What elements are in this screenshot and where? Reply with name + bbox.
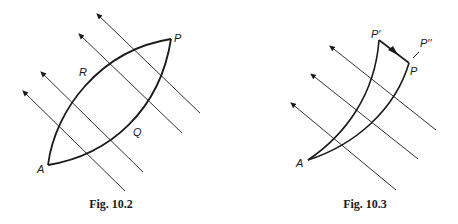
label-A: A [36, 163, 44, 175]
figure-caption: Fig. 10.3 [343, 197, 387, 211]
arrow-line [291, 103, 396, 190]
figure-caption: Fig. 10.2 [89, 197, 133, 211]
label-R: R [79, 66, 87, 78]
arrow-line [330, 46, 436, 130]
P-double-prime-tick [413, 52, 419, 58]
label-P: P [410, 65, 418, 77]
label-P-double-prime: P′′ [420, 37, 432, 49]
diagram-canvas: P R Q A Fig. 10.2 P′ P′′ P A Fig. 10.3 [0, 0, 458, 224]
lens-curve-lower [48, 39, 171, 165]
lens-curve-upper [48, 39, 171, 165]
arrow-line [79, 34, 182, 133]
label-A: A [295, 157, 303, 169]
label-P-prime: P′ [371, 28, 381, 40]
label-P: P [174, 32, 182, 44]
label-Q: Q [133, 126, 142, 138]
arrow-line [97, 14, 200, 113]
figure-10-3: P′ P′′ P A Fig. 10.3 [291, 28, 436, 211]
figure-10-2: P R Q A Fig. 10.2 [23, 14, 200, 211]
arrow-line [41, 72, 143, 172]
